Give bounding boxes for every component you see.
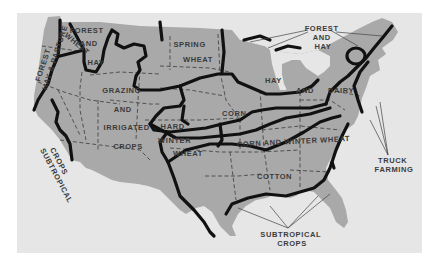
label-truck-farming: TRUCK FARMING — [375, 156, 414, 174]
label-hay: HAY — [265, 76, 282, 85]
label-cotton: COTTON — [257, 172, 292, 181]
label-and: AND — [296, 86, 314, 95]
us-agricultural-regions-map: FOREST HAY & PASTURE FOREST AND HAY WHEA… — [0, 0, 437, 267]
label-subtropical-south: SUBTROPICAL CROPS — [260, 230, 323, 248]
label-dairy: DAIRY — [328, 86, 354, 95]
label-corn: CORN — [222, 109, 246, 118]
